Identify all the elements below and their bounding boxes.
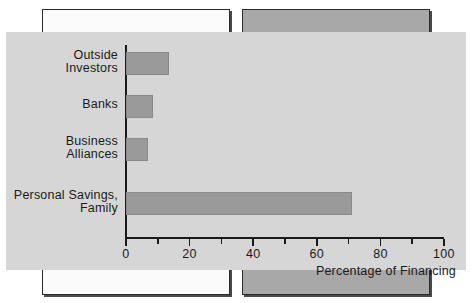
x-tick-label: 80 [373, 247, 388, 261]
x-tick-major [125, 239, 127, 246]
x-tick-label: 0 [122, 247, 129, 261]
x-tick-major [443, 239, 445, 246]
x-tick-major [316, 239, 318, 246]
x-tick-label: 60 [310, 247, 325, 261]
bar [126, 138, 148, 161]
category-label: Business Alliances [66, 135, 118, 162]
chart-panel: 020406080100 Outside InvestorsBanksBusin… [6, 32, 466, 270]
x-tick-minor [157, 239, 159, 244]
x-axis-title: Percentage of Financing [316, 264, 456, 278]
x-tick-label: 40 [246, 247, 261, 261]
x-tick-minor [411, 239, 413, 244]
bar [126, 52, 169, 75]
x-tick-major [380, 239, 382, 246]
x-tick-minor [221, 239, 223, 244]
x-tick-label: 20 [182, 247, 197, 261]
chart-screenshot: 020406080100 Outside InvestorsBanksBusin… [0, 0, 472, 303]
x-tick-minor [348, 239, 350, 244]
x-tick-major [189, 239, 191, 246]
x-tick-minor [284, 239, 286, 244]
category-label: Banks [82, 98, 118, 112]
x-tick-label: 100 [433, 247, 455, 261]
plot-area: 020406080100 Outside InvestorsBanksBusin… [6, 32, 466, 270]
bar [126, 95, 153, 118]
x-tick-major [252, 239, 254, 246]
bar [126, 192, 352, 215]
category-label: Personal Savings, Family [14, 189, 118, 216]
category-label: Outside Investors [65, 49, 118, 76]
